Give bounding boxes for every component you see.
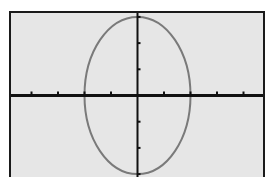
x-tick (163, 92, 165, 95)
x-tick (216, 92, 218, 95)
y-tick (138, 173, 141, 175)
x-tick (84, 92, 86, 95)
y-tick (138, 147, 141, 149)
y-tick (138, 16, 141, 18)
x-tick (57, 92, 59, 95)
x-tick (190, 92, 192, 95)
ellipse-plot (0, 0, 271, 177)
y-tick (138, 121, 141, 123)
x-tick (110, 92, 112, 95)
x-tick (243, 92, 245, 95)
y-tick (138, 68, 141, 70)
y-tick (138, 42, 141, 44)
x-tick (31, 92, 33, 95)
